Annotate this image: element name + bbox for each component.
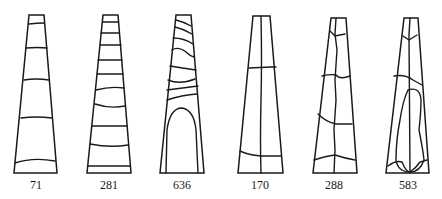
figure-71: 71 (14, 15, 57, 192)
diagram-canvas: 71 281 636 170 (0, 0, 442, 199)
figure-label: 281 (100, 178, 118, 192)
figure-label: 71 (30, 178, 42, 192)
figure-636: 636 (160, 15, 204, 192)
figure-281: 281 (87, 15, 131, 192)
figure-label: 583 (399, 178, 417, 192)
figure-288: 288 (313, 18, 357, 192)
figure-170: 170 (238, 16, 283, 192)
figure-label: 288 (325, 178, 343, 192)
figure-583: 583 (386, 18, 429, 192)
figure-label: 170 (251, 178, 269, 192)
figure-label: 636 (173, 178, 191, 192)
